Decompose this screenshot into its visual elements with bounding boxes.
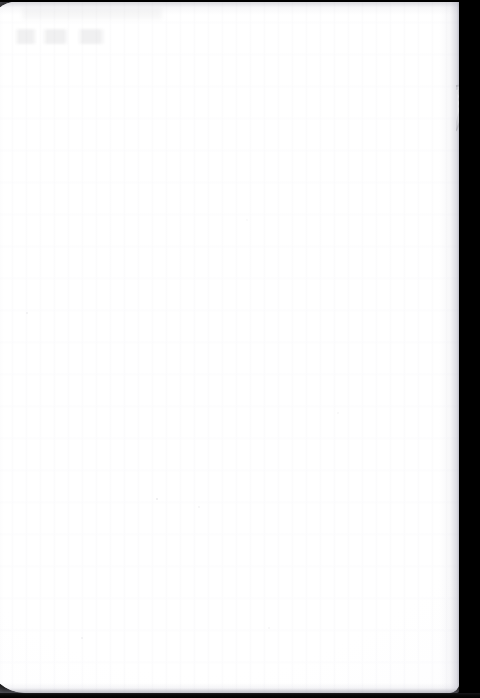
page-text-body — [26, 61, 406, 621]
torn-paper-tab-icon — [456, 84, 471, 132]
page-surface — [0, 1, 459, 693]
bleed-through-ghost-marks-secondary — [22, 7, 162, 19]
bleed-through-ghost-marks — [14, 19, 126, 49]
scanned-page-canvas — [0, 0, 480, 698]
